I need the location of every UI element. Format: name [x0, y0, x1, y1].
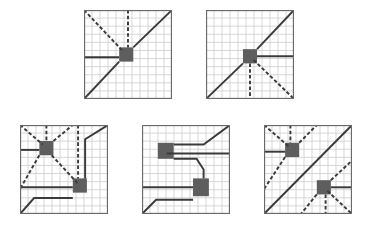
- solid-line: [206, 63, 243, 99]
- dashed-line: [254, 60, 294, 99]
- dashed-line: [20, 155, 39, 189]
- solid-line: [257, 10, 294, 49]
- solid-line: [174, 159, 204, 179]
- solid-line: [133, 10, 172, 47]
- grid-diagram: [20, 125, 108, 214]
- shaded-square: [158, 143, 174, 159]
- panel-5: [264, 125, 352, 214]
- panel-2: [206, 10, 294, 99]
- shaded-square: [39, 141, 53, 155]
- dashed-line: [327, 191, 352, 214]
- solid-line: [84, 62, 119, 99]
- grid-diagram: [142, 125, 230, 214]
- dashed-line: [299, 125, 317, 143]
- panel-3: [20, 125, 108, 214]
- dashed-line: [84, 10, 123, 51]
- panel-4: [142, 125, 230, 214]
- panel-1: [84, 10, 172, 99]
- shaded-square: [73, 178, 87, 192]
- grid-diagram: [206, 10, 294, 99]
- dashed-line: [264, 157, 285, 189]
- dashed-line: [264, 125, 289, 146]
- grid-diagram: [84, 10, 172, 99]
- grid-diagram: [264, 125, 352, 214]
- shaded-square: [193, 178, 209, 196]
- dashed-line: [301, 194, 317, 214]
- dashed-line: [20, 125, 43, 145]
- dashed-line: [331, 161, 352, 181]
